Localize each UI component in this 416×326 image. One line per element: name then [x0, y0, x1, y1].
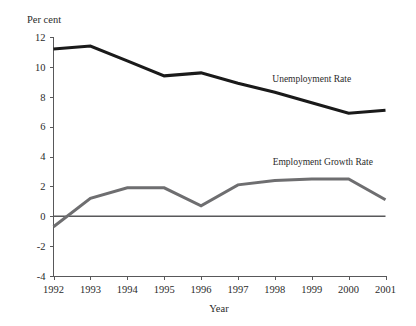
x-tick-label: 1992	[43, 284, 64, 295]
y-tick-label: 6	[40, 121, 45, 132]
line-chart: Per cent 121086420-2-4 19921993199419951…	[0, 0, 416, 326]
y-axis-ticks: 121086420-2-4	[35, 32, 54, 282]
y-tick-label: 10	[35, 62, 46, 73]
y-axis-title: Per cent	[27, 14, 61, 25]
x-tick-label: 1995	[154, 284, 175, 295]
y-tick-label: 4	[40, 151, 46, 162]
x-tick-label: 1996	[191, 284, 212, 295]
x-tick-label: 1999	[301, 284, 322, 295]
x-tick-label: 2001	[375, 284, 396, 295]
chart-page: Per cent 121086420-2-4 19921993199419951…	[0, 0, 416, 326]
y-tick-label: 12	[35, 32, 46, 43]
y-tick-label: 2	[40, 181, 45, 192]
x-tick-label: 1994	[117, 284, 139, 295]
y-tick-label: -4	[37, 271, 46, 282]
y-tick-label: -2	[37, 241, 46, 252]
employment-growth-rate-line	[54, 179, 386, 227]
x-tick-label: 1997	[227, 284, 248, 295]
employment-growth-rate-label: Employment Growth Rate	[273, 157, 373, 167]
x-axis-title: Year	[209, 303, 229, 314]
x-tick-label: 1998	[264, 284, 285, 295]
x-tick-label: 1993	[80, 284, 101, 295]
unemployment-rate-label: Unemployment Rate	[272, 74, 351, 84]
y-tick-label: 8	[40, 92, 45, 103]
y-tick-label: 0	[40, 211, 45, 222]
x-axis-ticks: 1992199319941995199619971998199920002001	[43, 276, 396, 295]
x-tick-label: 2000	[338, 284, 359, 295]
